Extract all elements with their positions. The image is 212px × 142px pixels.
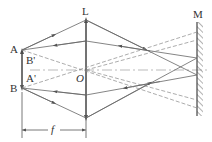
optics-diagram: L M A B B' A' O f — [0, 0, 212, 142]
image-a-label: A' — [26, 73, 36, 84]
mirror-hatch — [197, 22, 203, 116]
mirror-label: M — [193, 9, 203, 20]
ray-diagram — [0, 0, 212, 142]
image-b-label: B' — [26, 55, 35, 66]
center-label: O — [76, 73, 84, 84]
focal-label: f — [51, 124, 54, 135]
point-b-label: B — [10, 83, 17, 94]
lens-label: L — [82, 6, 89, 17]
point-a-label: A — [10, 44, 18, 55]
